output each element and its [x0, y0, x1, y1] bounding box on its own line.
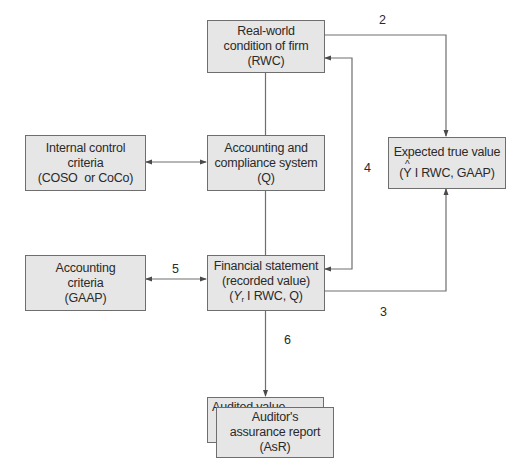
node-expected-true-value: Expected true value (Y I RWC, GAAP) — [388, 137, 506, 189]
node-text-line: compliance system — [215, 156, 318, 171]
node-text-line: Internal control — [46, 141, 125, 156]
formula-suffix: I RWC, GAAP) — [411, 166, 494, 180]
node-text-line: criteria — [68, 156, 104, 171]
node-formula-line: (Y I RWC, GAAP) — [399, 166, 494, 181]
node-accounting-compliance-system: Accounting and compliance system (Q) — [207, 135, 325, 191]
node-text-line: Financial statement — [214, 259, 319, 274]
node-text-line: (GAAP) — [65, 291, 107, 306]
node-financial-statement: Financial statement (recorded value) (Yr… — [207, 255, 325, 311]
edge-label-4: 4 — [364, 161, 371, 175]
node-text-line: condition of firm — [224, 39, 309, 54]
node-text-line: (recorded value) — [222, 274, 310, 289]
node-text-line: (RWC) — [248, 54, 285, 69]
edge-4 — [325, 58, 352, 269]
node-real-world-condition: Real-world condition of firm (RWC) — [207, 20, 325, 73]
node-auditors-assurance-report: Auditor's assurance report (AsR) — [216, 407, 334, 458]
edge-label-6: 6 — [284, 333, 291, 347]
formula-suffix: I RWC, Q) — [244, 289, 303, 303]
node-text-line: assurance report — [230, 425, 321, 440]
edge-label-3: 3 — [380, 305, 387, 319]
node-text-line: (Q) — [257, 171, 274, 186]
node-text-line: (COSO or CoCo) — [38, 171, 134, 186]
node-text-line: Accounting and — [224, 141, 307, 156]
node-text-line: Auditor's — [252, 410, 298, 425]
node-accounting-criteria: Accounting criteria (GAAP) — [25, 255, 146, 311]
node-text-line: Expected true value — [394, 145, 501, 160]
node-internal-control-criteria: Internal control criteria (COSO or CoCo) — [25, 135, 146, 191]
node-text-line: criteria — [68, 276, 104, 291]
node-text-line: Real-world — [237, 24, 295, 39]
node-text-line: (AsR) — [260, 440, 291, 455]
node-text-line: Accounting — [56, 261, 116, 276]
node-formula-line: (Yr I RWC, Q) — [229, 289, 302, 307]
diagram-canvas: 1 2 3 4 5 6 Real-world condition of firm… — [0, 0, 519, 466]
y-hat-symbol: Y — [403, 166, 411, 181]
edge-label-2: 2 — [379, 13, 386, 27]
edge-label-5: 5 — [172, 262, 179, 276]
edge-3 — [324, 189, 446, 291]
edge-2 — [324, 35, 446, 136]
